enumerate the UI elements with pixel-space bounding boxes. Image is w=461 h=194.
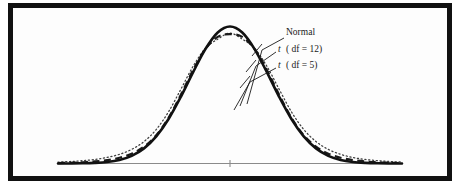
curve-t-df12 [58, 34, 402, 163]
label-t-df5-prefix: t [278, 60, 281, 70]
label-t-df12-prefix: t [278, 44, 281, 54]
distribution-plot: Normal t ( df = 12) t ( df = 5) [0, 0, 461, 194]
figure-root: Normal t ( df = 12) t ( df = 5) [0, 0, 461, 194]
plot-svg: Normal t ( df = 12) t ( df = 5) [0, 0, 461, 194]
label-t-df12-body: ( df = 12) [286, 44, 322, 55]
label-t-df12: t ( df = 12) [278, 44, 322, 55]
leader-tick-t-df5 [240, 76, 250, 88]
scan-margin [0, 184, 461, 194]
label-normal: Normal [286, 27, 315, 37]
label-t-df5: t ( df = 5) [278, 60, 318, 71]
label-t-df5-body: ( df = 5) [286, 60, 317, 71]
curve-t-df5 [58, 33, 402, 162]
curve-normal [58, 27, 402, 164]
